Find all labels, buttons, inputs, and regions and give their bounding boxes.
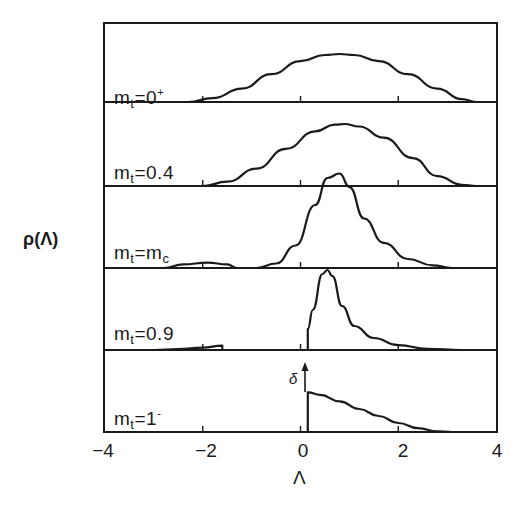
density-curve bbox=[154, 270, 496, 350]
panel-label-mt-0.9: mt=0.9 bbox=[114, 323, 174, 347]
panel-label-mt-0.4: mt=0.4 bbox=[114, 162, 174, 186]
curves bbox=[154, 54, 496, 432]
density-curve bbox=[164, 174, 452, 269]
density-curve bbox=[308, 392, 452, 432]
x-tick-label: 4 bbox=[492, 440, 503, 462]
x-tick-label: −4 bbox=[92, 440, 114, 462]
x-axis-label: Λ bbox=[293, 467, 306, 489]
plot-frame bbox=[104, 23, 497, 432]
x-ticks bbox=[203, 96, 399, 432]
x-tick-label: −2 bbox=[195, 440, 217, 462]
density-curve bbox=[188, 54, 496, 102]
plot-area bbox=[0, 0, 528, 508]
panel-label-mt-mc: mt=mc bbox=[114, 242, 169, 266]
density-curve bbox=[203, 124, 496, 186]
y-axis-label: ρ(Λ) bbox=[23, 229, 58, 250]
x-tick-label: 0 bbox=[298, 440, 309, 462]
x-tick-label: 2 bbox=[398, 440, 409, 462]
delta-arrow-icon bbox=[302, 362, 309, 392]
panel-label-mt-0plus: mt=0+ bbox=[114, 86, 164, 111]
panel-label-mt-1minus: mt=1- bbox=[114, 407, 161, 432]
delta-annotation: δ bbox=[289, 370, 297, 387]
